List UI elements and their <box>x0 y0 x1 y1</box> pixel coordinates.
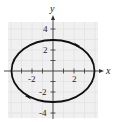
x-axis-label: x <box>105 65 111 76</box>
y-tick-label: 2 <box>43 45 48 55</box>
x-tick-label: 2 <box>72 74 77 84</box>
y-tick-label: -2 <box>39 87 47 97</box>
y-tick-label: -4 <box>39 108 47 118</box>
y-axis-arrow-icon <box>51 15 55 20</box>
x-tick-label: -2 <box>28 74 36 84</box>
ellipse-diagram: y x -2 2 4 2 -2 -4 <box>0 0 120 122</box>
y-tick-label: 4 <box>43 24 48 34</box>
y-axis-label: y <box>49 3 55 14</box>
x-axis-arrow-icon <box>99 69 104 73</box>
